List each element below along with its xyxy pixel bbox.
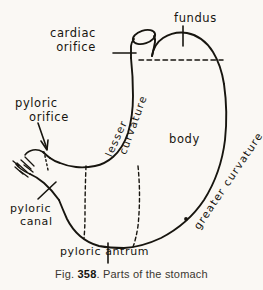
label-pyloric-orifice: pyloric orifice: [15, 97, 69, 124]
label-cardiac-orifice: cardiac orifice: [50, 27, 96, 54]
caption-prefix: Fig.: [55, 268, 74, 280]
figure-stomach-diagram: cardiac orifice fundus pyloric orifice b…: [0, 0, 263, 290]
divider-antrum-canal: [84, 166, 86, 238]
label-pyloric-orifice-line2: orifice: [15, 111, 69, 125]
caption-figure-number: 358: [78, 268, 97, 280]
label-pyloric-antrum: pyloric antrum: [60, 246, 149, 259]
figure-caption: Fig. 358. Parts of the stomach: [0, 268, 263, 280]
label-fundus-line1: fundus: [174, 11, 217, 25]
cut-duodenum: [13, 150, 43, 177]
label-pyloric-canal: pyloric canal: [10, 203, 53, 229]
label-body-line1: body: [169, 132, 200, 146]
caption-number-suffix: .: [96, 268, 99, 280]
label-pyloric-canal-line1: pyloric: [10, 202, 51, 215]
divider-body-antrum: [133, 166, 140, 247]
label-fundus: fundus: [174, 12, 217, 26]
label-pyloric-antrum-line1: pyloric antrum: [60, 245, 149, 258]
label-cardiac-orifice-line1: cardiac: [50, 26, 96, 40]
label-pyloric-orifice-line1: pyloric: [15, 96, 58, 110]
label-body: body: [169, 133, 200, 147]
caption-text: Parts of the stomach: [103, 268, 208, 280]
label-cardiac-orifice-line2: orifice: [50, 41, 96, 55]
label-pyloric-canal-line2: canal: [10, 216, 53, 229]
anchor-dot-greater-curvature: [184, 217, 188, 221]
leader-pyloric-orifice: [38, 123, 47, 149]
